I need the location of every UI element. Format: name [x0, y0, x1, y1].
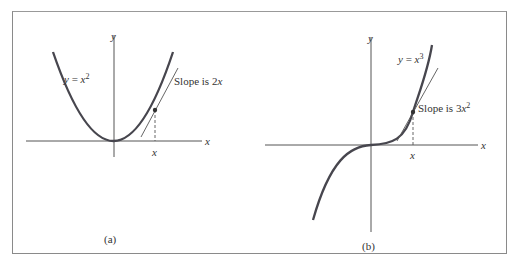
panel-b-x-axis-label: x: [481, 140, 486, 151]
panel-a-caption: (a): [104, 234, 116, 245]
panel-b-tangent-exp: 2: [466, 101, 470, 110]
panel-a-curve-exp: 2: [86, 72, 90, 81]
panel-b-curve-eq: =: [403, 53, 415, 65]
panel-a-tick-label: x: [152, 147, 157, 158]
panel-b-caption: (b): [362, 241, 375, 252]
panel-b-y-axis-label: y: [368, 33, 373, 44]
panel-a-tangent-var: x: [217, 75, 222, 87]
panel-a-y-axis-label: y: [111, 31, 116, 42]
panel-b-tick-label: x: [410, 150, 415, 161]
panel-b-tangent-prefix: Slope is 3: [418, 102, 461, 114]
panel-a-x-axis-label: x: [205, 136, 210, 147]
panel-a-curve-eq: =: [69, 73, 81, 85]
panel-b-curve-label: y = x3: [398, 54, 424, 65]
panel-a-tangent-line: [141, 68, 178, 137]
panel-b-graphics: [265, 37, 478, 232]
panel-a-tangent-point: [153, 108, 157, 112]
panel-a-tangent-prefix: Slope is 2: [174, 75, 217, 87]
panel-a-curve-label: y = x2: [64, 74, 90, 85]
panel-a-tangent-label: Slope is 2x: [174, 76, 222, 87]
panel-b-cubic-curve: [313, 45, 432, 220]
panel-b-tangent-label: Slope is 3x2: [418, 103, 470, 114]
figure-graphics: [0, 0, 516, 265]
panel-a-graphics: [26, 35, 202, 157]
panel-b-curve-exp: 3: [420, 52, 424, 61]
panel-b-tangent-point: [411, 110, 415, 114]
